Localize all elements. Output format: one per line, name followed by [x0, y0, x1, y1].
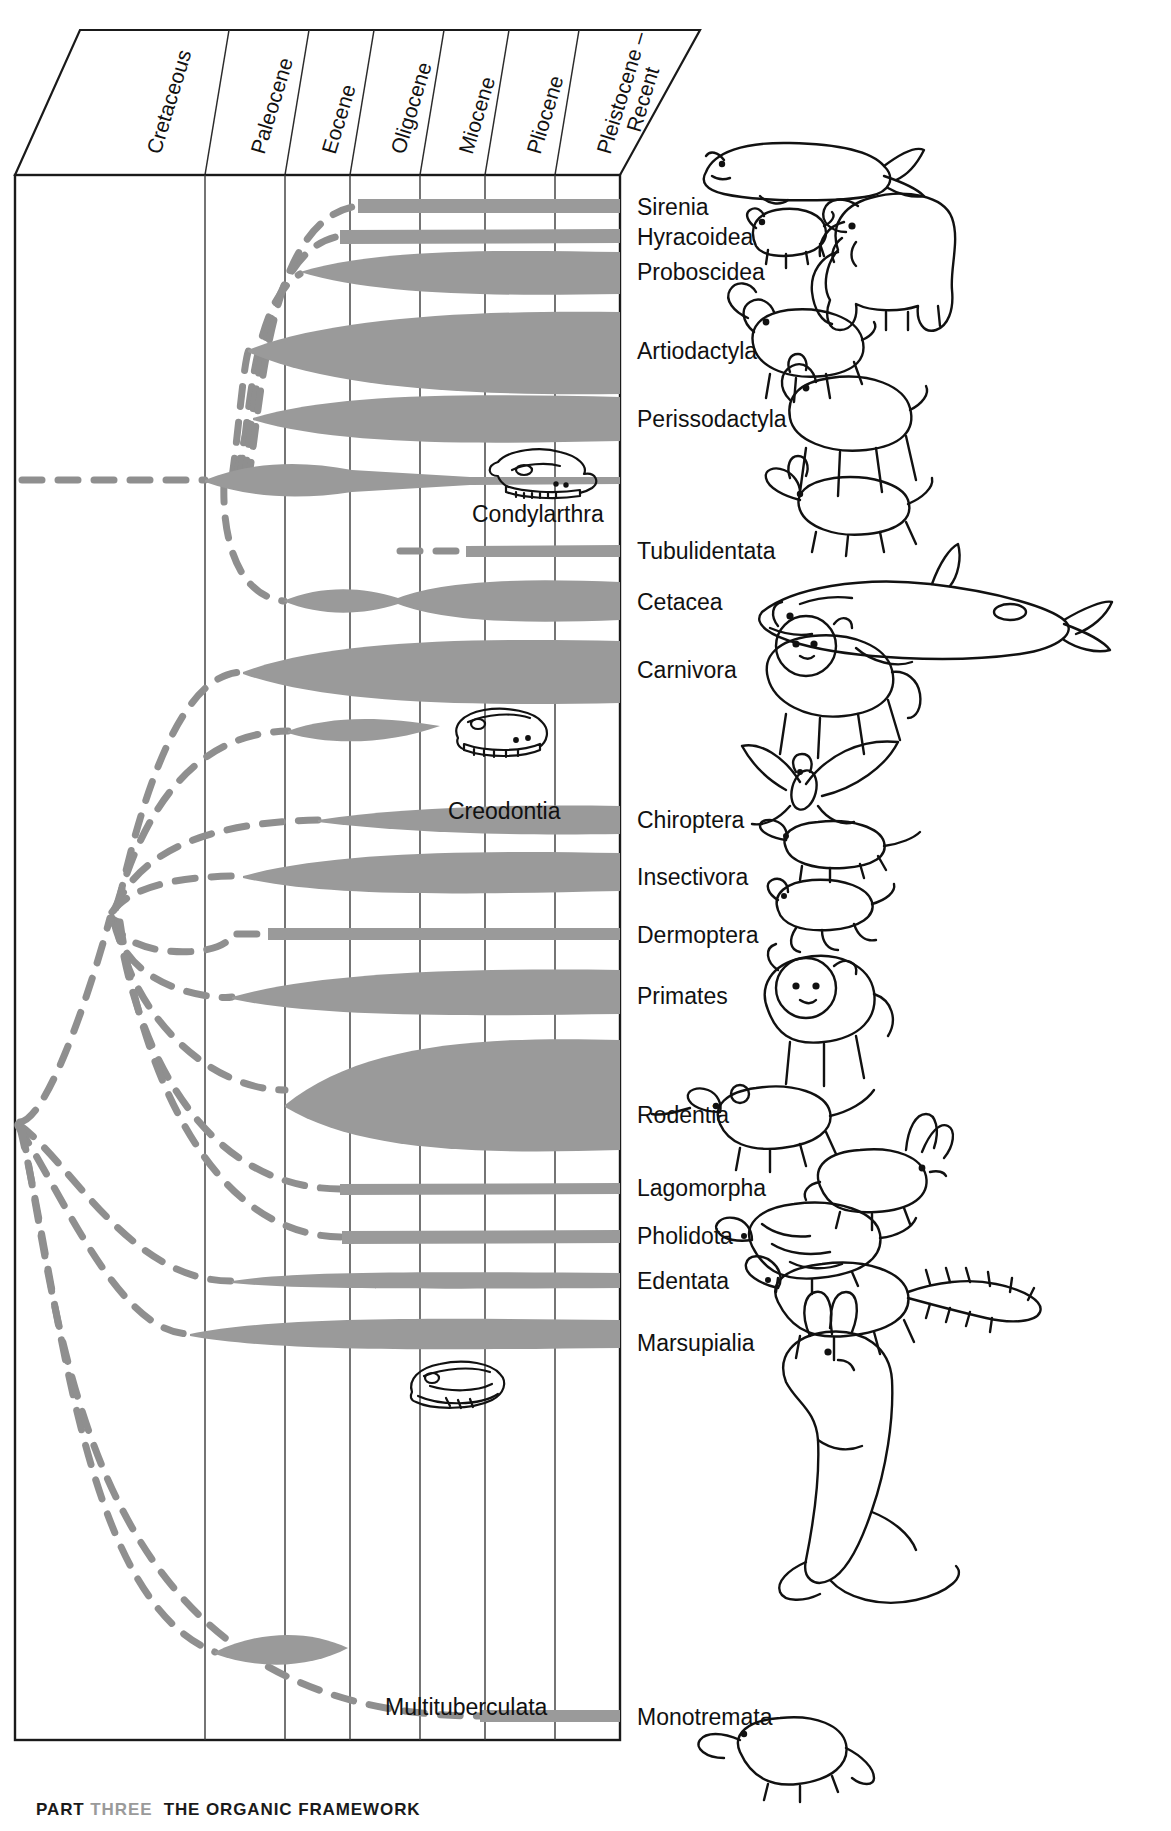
- rat-rodentia-icon: [652, 1085, 874, 1172]
- figure-root: Cretaceous Paleocene Eocene Oligocene Mi…: [0, 0, 1171, 1831]
- animal-illustration-layer: [0, 0, 1171, 1831]
- platypus-monotremata-icon: [698, 1717, 874, 1802]
- footer-part: PART: [36, 1800, 85, 1819]
- aardvark-tubulidentata-icon: [766, 456, 932, 556]
- shrew-insectivora-icon: [760, 820, 920, 882]
- bighorn-sheep-artiodactyla-icon: [728, 283, 875, 402]
- footer-number: THREE: [90, 1800, 152, 1819]
- hyrax-hyracoidea-icon: [747, 208, 833, 268]
- horse-perissodactyla-icon: [782, 354, 927, 496]
- footer-title: THE ORGANIC FRAMEWORK: [164, 1800, 421, 1819]
- footer-caption: PART THREE THE ORGANIC FRAMEWORK: [36, 1800, 421, 1820]
- primate-primates-icon: [765, 944, 893, 1086]
- pangolin-pholidota-icon: [716, 1203, 916, 1294]
- anteater-edentata-icon: [746, 1256, 1041, 1360]
- lion-carnivora-icon: [767, 602, 921, 758]
- kangaroo-marsupialia-icon: [779, 1292, 959, 1603]
- colugo-dermoptera-icon: [768, 879, 895, 952]
- bat-chiroptera-icon: [742, 741, 898, 824]
